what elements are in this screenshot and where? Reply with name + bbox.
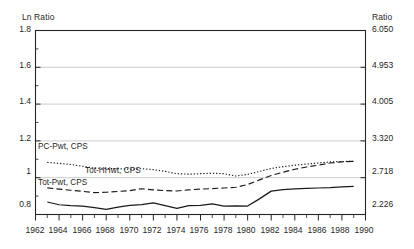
series-lines — [47, 161, 353, 209]
plot-frame — [36, 31, 366, 215]
plot-canvas — [0, 0, 414, 249]
chart-figure: Ln Ratio Ratio 1.8 1.6 1.4 1.2 1 0.8 6.0… — [0, 0, 414, 249]
gridlines — [36, 67, 366, 177]
